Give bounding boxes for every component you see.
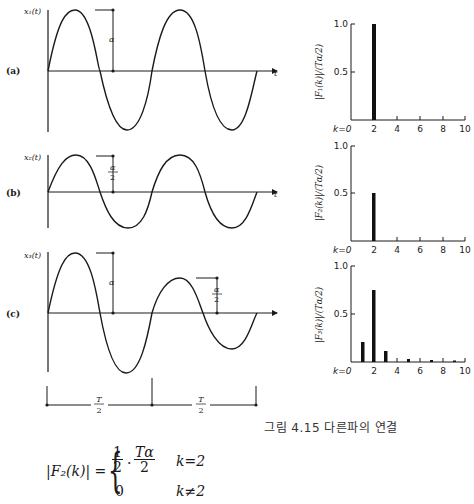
formula-value: Tα 2 [134, 445, 155, 474]
x-tick-2: 2 [371, 366, 377, 376]
x-tick-8: 8 [440, 366, 446, 376]
x-tick-10: 10 [459, 124, 471, 134]
x1-waveform [48, 10, 257, 130]
formula-value-den: 2 [134, 460, 155, 474]
spectrum-2-ylabel: |F₂(k)|/(Tα/2) [314, 165, 325, 221]
signal-x3-label: x₃(t) [24, 251, 41, 260]
signal-x2-label: x₂(t) [24, 153, 41, 162]
x-tick-k0: k=0 [333, 124, 352, 134]
formula-coef-num: 1 [112, 445, 123, 460]
panel-c: (c) x₃(t) α α 2 [6, 251, 277, 373]
spectrum-3-bar-k1 [361, 342, 365, 362]
x-tick-4: 4 [394, 124, 400, 134]
panel-b-label: (b) [6, 188, 21, 198]
spectrum-3-bar-k7 [430, 360, 433, 362]
formula-coef: 1 2 [112, 445, 123, 474]
panel-c-label: (c) [6, 309, 20, 319]
x3-amp1-label: α [109, 278, 115, 287]
x-tick-6: 6 [417, 366, 423, 376]
formula-lhs: |F₂(k)| = [46, 463, 106, 479]
x-tick-8: 8 [440, 124, 446, 134]
x-tick-4: 4 [394, 245, 400, 255]
spectrum-3-bar-k3 [384, 351, 388, 362]
formula-cond-1: k=2 [176, 453, 205, 469]
t-half-1-den: 2 [96, 406, 101, 415]
spectrum-3-bar-k9 [453, 361, 456, 363]
panel-a-label: (a) [6, 66, 20, 76]
x-tick-6: 6 [417, 124, 423, 134]
y-tick-1.0: 1.0 [334, 19, 349, 29]
formula: |F₂(k)| = { 1 2 · Tα 2 k=2 0 k≠2 [46, 445, 306, 503]
t-half-1-num: T [96, 395, 102, 404]
x1-amp-label: α [109, 35, 115, 44]
figure-caption: 그림 4.15 다른파의 연결 [264, 418, 398, 435]
y-tick-1.0: 1.0 [334, 261, 349, 271]
formula-value-num: Tα [134, 445, 155, 460]
spectrum-3-ylabel: |F₃(k)|/(Tα/2) [314, 287, 325, 343]
formula-dot: · [127, 455, 131, 471]
spectrum-1-ylabel: |F₁(k)|/(Tα/2) [314, 44, 325, 100]
x1-amp-dot-top [111, 8, 114, 11]
x2-amp-num: α [110, 163, 116, 172]
signal-x1-label: x₁(t) [24, 7, 41, 16]
x1-t-label: t [274, 69, 278, 78]
spectrum-3-bar-k5 [407, 359, 410, 362]
spectrum-3-bar-k2 [372, 290, 376, 362]
x-tick-8: 8 [440, 245, 446, 255]
formula-case-2: 0 [115, 483, 124, 499]
x-tick-6: 6 [417, 245, 423, 255]
figure-canvas: (a) x₁(t) t α |F₁(k)|/(Tα/2) 1.0 0.5 k=0… [0, 0, 474, 504]
panel-b: (b) x₂(t) t α 2 [6, 153, 278, 228]
x1-amp-dot-bottom [111, 69, 114, 72]
x-tick-10: 10 [459, 366, 471, 376]
spectrum-3: |F₃(k)|/(Tα/2) 1.0 0.5 k=0 2 4 6 8 10 [314, 261, 471, 376]
panel-a: (a) x₁(t) t α [6, 7, 278, 132]
spectrum-1-bar-k2 [372, 24, 376, 120]
y-tick-1.0: 1.0 [334, 141, 349, 151]
x3-amp2-num: α [214, 285, 220, 294]
x-tick-2: 2 [371, 124, 377, 134]
y-tick-0.5: 0.5 [334, 67, 348, 77]
x2-t-label: t [274, 190, 278, 199]
t-half-2-den: 2 [198, 406, 203, 415]
formula-cond-2: k≠2 [176, 483, 205, 499]
formula-coef-den: 2 [112, 460, 123, 474]
x-tick-10: 10 [459, 245, 471, 255]
x-tick-2: 2 [371, 245, 377, 255]
x-tick-k0: k=0 [333, 366, 352, 376]
time-scale: T 2 T 2 [45, 378, 257, 415]
spectrum-1: |F₁(k)|/(Tα/2) 1.0 0.5 k=0 2 4 6 8 10 [314, 19, 471, 134]
spectrum-2-bar-k2 [372, 193, 376, 241]
spectrum-2: |F₂(k)|/(Tα/2) 1.0 0.5 k=0 2 4 6 8 10 [314, 141, 471, 255]
y-tick-0.5: 0.5 [334, 309, 348, 319]
x-tick-k0: k=0 [333, 245, 352, 255]
x3-amp2-den: 2 [214, 295, 219, 304]
y-tick-0.5: 0.5 [334, 188, 348, 198]
x2-amp-den: 2 [110, 173, 115, 182]
t-half-2-num: T [198, 395, 204, 404]
x-tick-4: 4 [394, 366, 400, 376]
